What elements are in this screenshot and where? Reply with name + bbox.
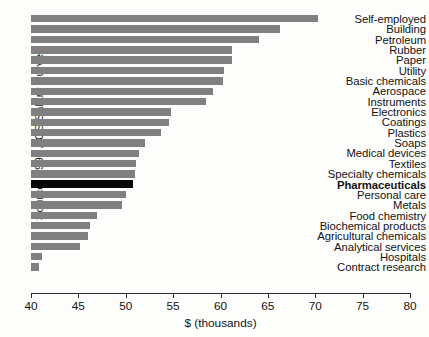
x-axis-tick-label: 80 — [390, 299, 429, 313]
x-axis-tick-label: 50 — [106, 299, 146, 313]
bar — [31, 77, 223, 84]
x-axis-tick — [78, 293, 79, 298]
bar — [31, 212, 97, 219]
bar — [31, 243, 80, 250]
x-axis-tick-label: 75 — [343, 299, 383, 313]
bar — [31, 232, 88, 239]
category-label: Agricultural chemicals — [236, 231, 428, 241]
bar — [31, 36, 259, 43]
bar — [31, 139, 145, 146]
x-axis-tick — [268, 293, 269, 298]
bar — [31, 119, 169, 126]
bar — [31, 170, 135, 177]
x-axis-tick — [363, 293, 364, 298]
category-label: Specialty chemicals — [236, 169, 428, 179]
bar — [31, 253, 42, 260]
category-label: Metals — [236, 200, 428, 210]
x-axis-tick — [31, 293, 32, 298]
x-axis-tick — [126, 293, 127, 298]
x-axis-title: $ (thousands) — [31, 316, 410, 330]
bar — [31, 56, 232, 63]
x-axis-tick-label: 70 — [295, 299, 335, 313]
x-axis-tick — [221, 293, 222, 298]
bar — [31, 201, 122, 208]
bar — [31, 88, 213, 95]
x-axis-tick — [315, 293, 316, 298]
x-axis-tick-label: 60 — [201, 299, 241, 313]
bar — [31, 150, 139, 157]
bar-chart: Source: 1998 ACS Salary Survey Self-empl… — [0, 0, 429, 337]
category-label-column: Self-employedBuildingPetroleumRubberPape… — [236, 14, 428, 293]
x-axis-tick — [410, 293, 411, 298]
bar — [31, 263, 39, 270]
bar — [31, 67, 224, 74]
x-axis-tick-label: 55 — [153, 299, 193, 313]
bar — [31, 129, 161, 136]
bar — [31, 46, 232, 53]
x-axis-tick-label: 40 — [11, 299, 51, 313]
x-axis-tick-label: 65 — [248, 299, 288, 313]
category-label: Contract research — [236, 262, 428, 272]
bar — [31, 160, 136, 167]
bar — [31, 191, 126, 198]
bar — [31, 180, 133, 188]
bar — [31, 98, 206, 105]
x-axis-tick-label: 45 — [58, 299, 98, 313]
bar — [31, 222, 90, 229]
x-axis-tick — [173, 293, 174, 298]
bar — [31, 108, 171, 115]
